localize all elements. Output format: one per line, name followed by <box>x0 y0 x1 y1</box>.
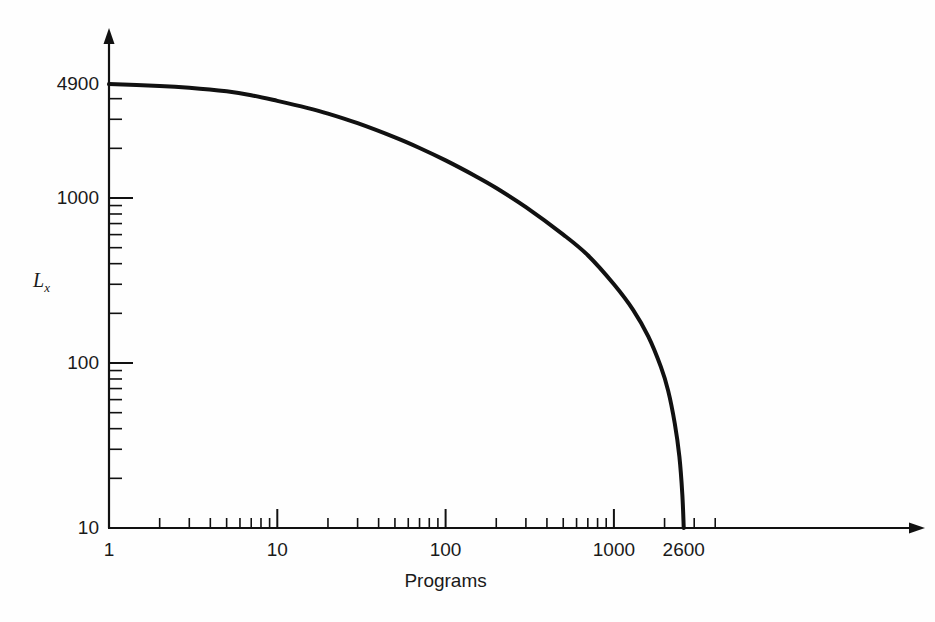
y-tick-label: 10 <box>78 518 99 537</box>
y-axis-arrow <box>104 28 115 44</box>
series-line <box>109 84 684 528</box>
x-tick-label: 2600 <box>624 540 744 559</box>
y-axis-title: Lx <box>33 270 50 294</box>
x-tick-label: 1 <box>49 540 169 559</box>
x-tick-label: 10 <box>217 540 337 559</box>
x-axis-title: Programs <box>366 571 526 590</box>
x-axis-minor-ticks <box>160 518 716 528</box>
data-series-lines <box>109 84 684 528</box>
y-axis-title-subscript: x <box>44 280 50 295</box>
chart-figure: 1010010004900 11010010002600 Lx Programs <box>0 0 935 622</box>
chart-plot-area <box>0 0 935 622</box>
axis-lines <box>104 28 926 534</box>
x-tick-label: 100 <box>386 540 506 559</box>
y-axis-title-base: L <box>33 269 44 291</box>
x-axis-major-ticks <box>277 509 683 528</box>
y-axis-minor-ticks <box>109 99 122 479</box>
x-axis-arrow <box>909 523 925 534</box>
y-tick-label: 1000 <box>57 188 99 207</box>
y-tick-label: 100 <box>67 353 99 372</box>
y-tick-label: 4900 <box>57 74 99 93</box>
